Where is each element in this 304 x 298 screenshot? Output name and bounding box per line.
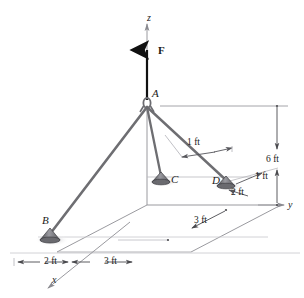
anchor-at-B: [35, 228, 69, 246]
d-offset-guide: [226, 168, 278, 182]
axis-label-x: x: [52, 275, 56, 285]
base-edge-right: [191, 205, 281, 252]
dimension-label-1ft-upper: 1 ft: [187, 138, 200, 148]
point-label-C: C: [171, 174, 178, 185]
force-label-F: F: [158, 45, 165, 56]
dimension-label-3ft-base: 3 ft: [104, 257, 117, 267]
dimension-label-3ft-depth: 3 ft: [194, 216, 207, 226]
dimension-label-2ft-at-D: 2 ft: [231, 188, 244, 198]
point-label-A: A: [152, 88, 159, 99]
statics-diagram-canvas: [0, 0, 304, 298]
cord-AB: [50, 107, 147, 234]
point-label-B: B: [42, 215, 49, 226]
dimension-label-6ft-height: 6 ft: [266, 155, 279, 165]
x-axis-group: [48, 222, 130, 288]
dimension-label-2ft-base: 2 ft: [44, 257, 57, 267]
dimension-3ft-depth: [118, 209, 227, 241]
axis-label-y: y: [288, 200, 292, 210]
point-label-D: D: [212, 175, 220, 186]
dimension-label-1ft-at-D: 1 ft: [255, 172, 268, 182]
axis-label-z: z: [147, 13, 151, 23]
